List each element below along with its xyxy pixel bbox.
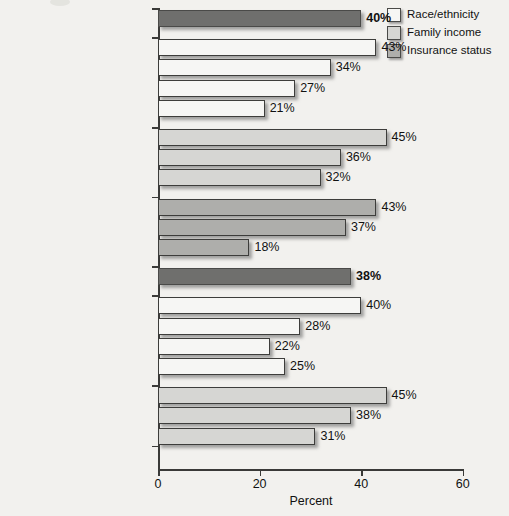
bar-value-label: 36% bbox=[346, 148, 371, 167]
bar bbox=[158, 39, 376, 56]
bar-value-label: 37% bbox=[351, 218, 376, 237]
bar bbox=[158, 407, 351, 424]
bar-value-label: 34% bbox=[336, 58, 361, 77]
y-axis-tick bbox=[152, 127, 159, 129]
legend-label: Race/ethnicity bbox=[407, 8, 479, 21]
y-axis-tick bbox=[152, 295, 159, 297]
scan-artifact bbox=[50, 0, 70, 6]
x-axis-line bbox=[158, 469, 464, 471]
bar-value-label: 25% bbox=[290, 357, 315, 376]
legend-label: Family income bbox=[407, 26, 481, 39]
x-axis-tick bbox=[158, 469, 160, 476]
x-axis-tick-label: 20 bbox=[253, 477, 267, 491]
bar-chart: Race/ethnicity Family income Insurance s… bbox=[0, 0, 509, 516]
legend-item-race-ethnicity: Race/ethnicity bbox=[387, 6, 505, 23]
x-axis-tick bbox=[463, 469, 465, 476]
x-axis-tick-label: 60 bbox=[456, 477, 470, 491]
bar-value-label: 38% bbox=[356, 267, 381, 286]
legend-label: Insurance status bbox=[407, 44, 491, 57]
y-axis-tick bbox=[152, 385, 159, 387]
bar-value-label: 27% bbox=[300, 79, 325, 98]
bar bbox=[158, 338, 270, 355]
bar bbox=[158, 219, 346, 236]
bar bbox=[158, 428, 315, 445]
bar bbox=[158, 80, 295, 97]
bar bbox=[158, 59, 331, 76]
bar-value-label: 45% bbox=[392, 386, 417, 405]
bar bbox=[158, 149, 341, 166]
y-axis-tick bbox=[152, 37, 159, 39]
y-axis-tick bbox=[152, 446, 159, 448]
bar bbox=[158, 239, 249, 256]
bar-value-label: 22% bbox=[275, 337, 300, 356]
bar-value-label: 31% bbox=[320, 427, 345, 446]
bar bbox=[158, 297, 361, 314]
y-axis-tick bbox=[152, 266, 159, 268]
bar bbox=[158, 169, 321, 186]
bar-value-label: 43% bbox=[381, 38, 406, 57]
bar-value-label: 28% bbox=[305, 317, 330, 336]
bar bbox=[158, 129, 387, 146]
bar-value-label: 40% bbox=[366, 9, 391, 28]
bar-value-label: 32% bbox=[326, 168, 351, 187]
y-axis-tick bbox=[152, 197, 159, 199]
bar bbox=[158, 318, 300, 335]
bar bbox=[158, 199, 376, 216]
bar bbox=[158, 358, 285, 375]
bar-value-label: 45% bbox=[392, 128, 417, 147]
bar-value-label: 38% bbox=[356, 406, 381, 425]
x-axis-title: Percent bbox=[289, 494, 332, 508]
bar-value-label: 43% bbox=[381, 198, 406, 217]
bar bbox=[158, 387, 387, 404]
bar-value-label: 18% bbox=[254, 238, 279, 257]
bar bbox=[158, 268, 351, 285]
y-axis-tick bbox=[152, 8, 159, 10]
x-axis-tick bbox=[361, 469, 363, 476]
bar-value-label: 21% bbox=[270, 99, 295, 118]
bar-value-label: 40% bbox=[366, 296, 391, 315]
x-axis-tick-label: 0 bbox=[155, 477, 162, 491]
x-axis-tick bbox=[260, 469, 262, 476]
bar bbox=[158, 100, 265, 117]
x-axis-tick-label: 40 bbox=[354, 477, 368, 491]
bar bbox=[158, 10, 361, 27]
